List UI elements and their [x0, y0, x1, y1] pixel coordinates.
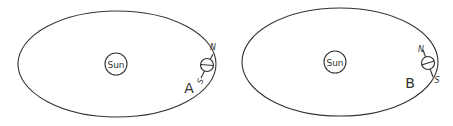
sun-b: Sun — [324, 51, 346, 73]
north-label-b: N — [418, 45, 424, 54]
diagram-b: Sun N S B — [242, 8, 440, 116]
sun-label-b: Sun — [326, 58, 343, 68]
north-label-a: N — [210, 43, 216, 52]
earth-b: N S B — [405, 45, 439, 91]
orbit-diagrams: Sun N S A Sun N S B — [0, 0, 453, 126]
position-label-b: B — [405, 75, 415, 91]
earth-a: N S A — [184, 43, 216, 96]
position-label-a: A — [184, 80, 194, 96]
south-label-a: S — [195, 77, 205, 85]
south-label-b: S — [434, 76, 439, 85]
diagram-a: Sun N S A — [18, 11, 216, 117]
sun-a: Sun — [105, 53, 127, 75]
sun-label-a: Sun — [107, 60, 124, 70]
